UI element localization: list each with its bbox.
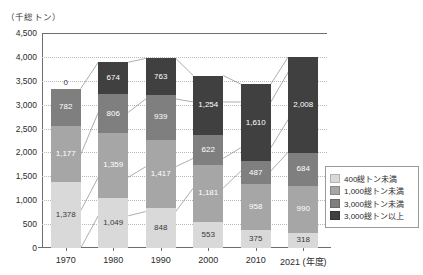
bar-segment[interactable]: 848	[146, 208, 176, 249]
bar-segment-value: 622	[202, 146, 215, 154]
bar-segment-value: 684	[297, 165, 310, 173]
bar-segment[interactable]: 990	[288, 186, 318, 233]
bar-segment[interactable]: 487	[241, 161, 271, 184]
y-tick-label-3500: 3,500	[16, 76, 37, 86]
x-tick-1970	[66, 248, 67, 251]
gridline-1500	[42, 176, 327, 177]
bar-segment[interactable]: 1,359	[98, 133, 128, 198]
legend-item-2[interactable]: 3,000総トン未満	[330, 198, 415, 209]
chart-legend: 400総トン未満1,000総トン未満3,000総トン未満3,000総トン以上	[325, 166, 419, 228]
gridline-1000	[42, 200, 327, 201]
bar-segment-value: 990	[297, 205, 310, 213]
legend-rows: 400総トン未満1,000総トン未満3,000総トン未満3,000総トン以上	[330, 173, 415, 222]
bar-segment-value: 806	[107, 110, 120, 118]
legend-label: 400総トン未満	[344, 173, 397, 184]
bar-segment[interactable]: 375	[241, 230, 271, 248]
bar-segment-value: 1,610	[246, 119, 266, 127]
bar-segment-value: 958	[249, 203, 262, 211]
gridline-4500	[42, 33, 327, 34]
bar-segment[interactable]: 806	[98, 94, 128, 133]
bar-segment[interactable]: 958	[241, 184, 271, 230]
x-tick-2010	[256, 248, 257, 251]
bar-segment[interactable]: 674	[98, 62, 128, 94]
bar-segment-value: 848	[154, 224, 167, 232]
x-tick-1990	[161, 248, 162, 251]
bar-segment[interactable]: 2,008	[288, 57, 318, 153]
y-tick-label-1500: 1,500	[16, 171, 37, 181]
bar-column-1980[interactable]: 1,0491,359806674	[98, 33, 128, 248]
bar-segment-value: 1,378	[56, 211, 76, 219]
bar-segment-value: 487	[249, 169, 262, 177]
bar-segment-value: 1,417	[151, 170, 171, 178]
bar-segment-value: 939	[154, 113, 167, 121]
x-tick-label-1980: 1980	[103, 255, 123, 265]
bar-segment[interactable]: 782	[51, 89, 81, 126]
x-tick-1980	[113, 248, 114, 251]
bar-column-2010[interactable]: 3759584871,610	[241, 33, 271, 248]
gridline-500	[42, 224, 327, 225]
bar-segment[interactable]: 622	[193, 135, 223, 165]
legend-item-1[interactable]: 1,000総トン未満	[330, 185, 415, 196]
bar-segment[interactable]: 318	[288, 233, 318, 248]
bar-segment[interactable]: 1,610	[241, 84, 271, 161]
y-tick-label-2000: 2,000	[16, 147, 37, 157]
legend-swatch-icon	[330, 174, 340, 183]
x-tick-label-1990: 1990	[151, 255, 171, 265]
bar-column-1970[interactable]: 1,3781,1777820	[51, 33, 81, 248]
bar-column-2021[interactable]: 3189906842,008	[288, 33, 318, 248]
bar-segment-value: 1,049	[103, 219, 123, 227]
y-tick-label-4000: 4,000	[16, 52, 37, 62]
y-axis-unit-label: （千総トン）	[6, 10, 61, 22]
legend-label: 3,000総トン未満	[344, 198, 404, 209]
bar-segment-value: 1,181	[198, 189, 218, 197]
bar-segment-value: 1,359	[103, 161, 123, 169]
legend-label: 3,000総トン以上	[344, 210, 404, 221]
gridline-3500	[42, 81, 327, 82]
y-tick-label-0: 0	[32, 243, 37, 253]
gridline-3000	[42, 105, 327, 106]
gridline-2500	[42, 129, 327, 130]
y-tick-label-4500: 4,500	[16, 28, 37, 38]
x-tick-label-2021: 2021 (年度)	[280, 255, 327, 268]
x-tick-label-2010: 2010	[246, 255, 266, 265]
x-tick-2000	[208, 248, 209, 251]
bar-segment[interactable]: 1,049	[98, 198, 128, 248]
bar-segment-value-zero: 0	[51, 78, 81, 87]
bar-segment[interactable]: 763	[146, 58, 176, 94]
bar-segment-value: 763	[154, 73, 167, 81]
bar-segment-value: 1,254	[198, 101, 218, 109]
bar-segment[interactable]: 1,177	[51, 126, 81, 182]
bar-column-1990[interactable]: 8481,417939763	[146, 33, 176, 248]
bar-segment[interactable]: 1,378	[51, 182, 81, 248]
bar-segment[interactable]: 1,181	[193, 165, 223, 221]
legend-label: 1,000総トン未満	[344, 185, 404, 196]
gridline-4000	[42, 57, 327, 58]
legend-swatch-icon	[330, 199, 340, 208]
legend-swatch-icon	[330, 211, 340, 220]
y-axis-line	[42, 33, 43, 248]
y-tick-label-2500: 2,500	[16, 124, 37, 134]
bar-segment[interactable]: 939	[146, 95, 176, 140]
y-tick-label-500: 500	[23, 219, 37, 229]
x-tick-2021	[303, 248, 304, 251]
bar-segment[interactable]: 684	[288, 153, 318, 186]
x-axis-line	[38, 247, 331, 248]
legend-item-0[interactable]: 400総トン未満	[330, 173, 415, 184]
bar-segment-value: 674	[107, 74, 120, 82]
y-tick-label-3000: 3,000	[16, 100, 37, 110]
bar-segment[interactable]: 1,417	[146, 140, 176, 208]
bar-segment-value: 553	[202, 231, 215, 239]
bar-segment[interactable]: 553	[193, 222, 223, 248]
bar-segment-value: 2,008	[293, 101, 313, 109]
bar-column-2000[interactable]: 5531,1816221,254	[193, 33, 223, 248]
legend-swatch-icon	[330, 186, 340, 195]
bar-segment-value: 375	[249, 235, 262, 243]
bar-segment[interactable]: 1,254	[193, 76, 223, 136]
segment-connector-lines	[42, 33, 327, 248]
bar-segment-value: 782	[59, 103, 72, 111]
y-tick-label-1000: 1,000	[16, 195, 37, 205]
x-tick-label-1970: 1970	[56, 255, 76, 265]
bar-segment-value: 318	[297, 236, 310, 244]
legend-item-3[interactable]: 3,000総トン以上	[330, 210, 415, 221]
x-tick-label-2000: 2000	[198, 255, 218, 265]
